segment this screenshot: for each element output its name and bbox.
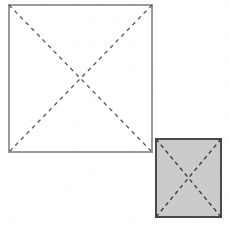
large-square-group	[9, 5, 152, 152]
figure-drawing	[0, 0, 229, 225]
figure-canvas	[0, 0, 229, 225]
small-square-group	[156, 139, 221, 217]
